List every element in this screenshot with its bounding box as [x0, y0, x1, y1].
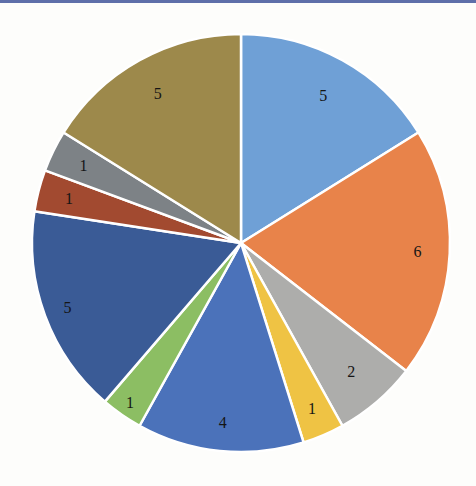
pie-chart-figure: 5621415115 [0, 0, 476, 486]
slice-label-2: 6 [413, 243, 421, 260]
slice-label-1: 5 [319, 87, 327, 104]
slice-label-9: 1 [79, 157, 87, 174]
pie-chart: 5621415115 [0, 0, 476, 486]
slice-label-10: 5 [154, 85, 162, 102]
slice-label-7: 5 [64, 299, 72, 316]
slice-label-4: 1 [308, 400, 316, 417]
slice-label-8: 1 [65, 190, 73, 207]
slice-label-3: 2 [347, 363, 355, 380]
slice-label-5: 4 [219, 414, 227, 431]
slice-label-6: 1 [126, 394, 134, 411]
